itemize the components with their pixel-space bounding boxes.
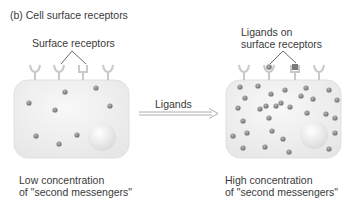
second-messenger-dot	[242, 95, 247, 100]
nucleus	[300, 121, 328, 149]
second-messenger-dot	[26, 100, 31, 105]
right-receptors	[239, 65, 324, 80]
nucleus	[88, 123, 116, 151]
second-messenger-dot	[286, 149, 291, 154]
second-messenger-dot	[244, 130, 249, 135]
receptor-icon	[79, 65, 87, 80]
second-messenger-dot	[326, 87, 331, 92]
bound-ligand-square-icon	[292, 64, 298, 70]
second-messenger-dot	[268, 91, 273, 96]
left-receptors	[30, 65, 113, 80]
second-messenger-dot	[230, 133, 235, 138]
receptor-icon	[30, 65, 40, 80]
second-messenger-dot	[282, 87, 287, 92]
cell-diagram	[0, 0, 357, 205]
second-messenger-dot	[257, 106, 262, 111]
second-messenger-dot	[310, 96, 315, 101]
second-messenger-dot	[235, 105, 240, 110]
second-messenger-dot	[237, 84, 242, 89]
receptor-icon	[239, 65, 249, 80]
receptor-icon	[103, 65, 113, 80]
second-messenger-dot	[304, 110, 309, 115]
callout-lines	[270, 51, 296, 64]
second-messenger-dot	[269, 128, 274, 133]
receptor-icon	[54, 65, 64, 80]
second-messenger-dot	[262, 144, 267, 149]
second-messenger-dot	[62, 89, 67, 94]
second-messenger-dot	[334, 97, 339, 102]
second-messenger-dot	[74, 132, 79, 137]
second-messenger-dot	[33, 133, 38, 138]
second-messenger-dot	[255, 83, 260, 88]
second-messenger-dot	[93, 85, 98, 90]
second-messenger-dot	[323, 111, 328, 116]
second-messenger-dot	[298, 93, 303, 98]
second-messenger-dot	[332, 115, 337, 120]
second-messenger-dot	[107, 103, 112, 108]
second-messenger-dot	[303, 85, 308, 90]
bound-ligand-circle-icon	[266, 64, 272, 70]
second-messenger-dot	[273, 103, 278, 108]
second-messenger-dot	[56, 141, 61, 146]
second-messenger-dot	[240, 145, 245, 150]
second-messenger-dot	[280, 136, 285, 141]
second-messenger-dot	[266, 115, 271, 120]
second-messenger-dot	[263, 103, 268, 108]
second-messenger-dot	[278, 100, 283, 105]
second-messenger-dot	[240, 118, 245, 123]
right-cell	[226, 80, 341, 158]
second-messenger-dot	[332, 130, 337, 135]
second-messenger-dot	[287, 104, 292, 109]
callout-lines	[61, 51, 86, 64]
second-messenger-dot	[52, 107, 57, 112]
left-cell	[14, 80, 129, 158]
second-messenger-dot	[326, 146, 331, 151]
receptor-icon	[314, 65, 324, 80]
ligands-arrow	[139, 109, 218, 119]
